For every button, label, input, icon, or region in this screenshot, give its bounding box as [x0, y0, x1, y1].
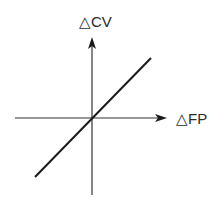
diagram-canvas — [0, 0, 216, 208]
x-axis-label: △FP — [176, 111, 207, 126]
y-axis-label: △CV — [79, 14, 112, 29]
